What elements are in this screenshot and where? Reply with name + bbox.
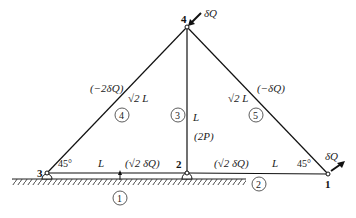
member-number-2: 2 <box>252 177 266 191</box>
ground <box>12 179 246 185</box>
member-3-length: L <box>192 111 199 123</box>
member-number-4: 4 <box>115 108 129 122</box>
member-3-force: (2P) <box>194 130 214 143</box>
member-number-5: 5 <box>249 108 263 122</box>
member-5-force: (−δQ) <box>257 82 285 95</box>
member-2-force: (√2 δQ) <box>214 157 249 170</box>
member-1-length: L <box>97 157 104 169</box>
truss-diagram: 4 3 2 1 δQ δQ 45° 45° (−2δQ) (−δQ) (2P) … <box>0 0 356 218</box>
member-4 <box>47 27 187 173</box>
node-label-1: 1 <box>325 178 331 190</box>
member-2 <box>187 173 328 174</box>
svg-text:4: 4 <box>119 110 124 121</box>
node-1-pin-icon <box>326 172 330 176</box>
node-label-2: 2 <box>176 158 182 170</box>
member-1-force: (√2 δQ) <box>125 157 160 170</box>
svg-text:1: 1 <box>117 193 122 204</box>
member-number-3: 3 <box>171 108 185 122</box>
angle-label-node-1: 45° <box>297 158 311 169</box>
node-2-pin-icon <box>185 171 189 175</box>
load-label-node-4: δQ <box>204 7 217 19</box>
svg-text:5: 5 <box>253 110 258 121</box>
svg-text:2: 2 <box>256 179 261 190</box>
members <box>47 27 328 174</box>
load-arrow-node-4-icon <box>188 13 201 26</box>
load-label-node-1: δQ <box>325 150 338 162</box>
member-5-length: √2 L <box>228 92 248 104</box>
svg-text:3: 3 <box>175 110 180 121</box>
member-number-1: 1 <box>113 191 127 205</box>
member-4-length: √2 L <box>128 92 148 104</box>
member-2-length: L <box>271 157 278 169</box>
node-3-pin-icon <box>45 171 49 175</box>
member-5 <box>187 27 328 174</box>
node-label-3: 3 <box>37 167 43 179</box>
load-arrow-node-1-icon <box>331 161 345 171</box>
node-label-4: 4 <box>181 13 187 25</box>
angle-label-node-3: 45° <box>58 158 72 169</box>
member-4-force: (−2δQ) <box>90 82 124 95</box>
